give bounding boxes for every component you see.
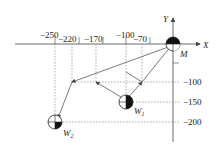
x-axis-label: X: [202, 40, 209, 50]
diagram-canvas: X Y −250 −220 −170 −100 −70 −100 −150 −2…: [0, 0, 218, 147]
w2-label: W2: [63, 128, 74, 139]
svg-text:−220: −220: [58, 34, 77, 44]
svg-text:−70: −70: [133, 34, 148, 44]
svg-text:−250: −250: [40, 30, 59, 40]
workpiece-w1-marker: [119, 95, 133, 109]
w1-label: W1: [134, 106, 145, 117]
y-tick-labels: −100 −150 −200: [173, 63, 202, 127]
svg-text:−200: −200: [183, 117, 202, 127]
origin-marker-m: [166, 37, 180, 51]
origin-label: M: [179, 49, 188, 59]
svg-text:−100: −100: [183, 77, 202, 87]
svg-text:−150: −150: [183, 97, 202, 107]
workpiece-w2-marker: [48, 115, 62, 129]
x-tick-labels: −250 −220 −170 −100 −70: [40, 30, 150, 44]
dashed-guides: [55, 44, 180, 122]
y-axis-label: Y: [163, 14, 169, 24]
svg-text:−170: −170: [84, 34, 103, 44]
